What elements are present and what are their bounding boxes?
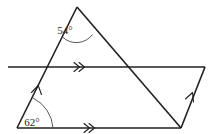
geometry-figure-svg: 54° 62° bbox=[0, 0, 214, 134]
apex-angle-label: 54° bbox=[57, 24, 72, 36]
bottom-left-angle-label: 62° bbox=[24, 116, 39, 128]
geometry-figure-canvas: 54° 62° bbox=[0, 0, 214, 134]
